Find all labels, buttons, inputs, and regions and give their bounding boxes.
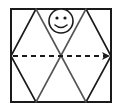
right-lower-edge [86,56,111,102]
diagram-canvas [0,0,118,108]
left-lower-edge [11,56,36,102]
left-eye [55,16,58,19]
right-upper-edge [86,9,111,56]
smiley-face-icon [49,9,73,33]
diagram-svg [0,0,118,108]
left-upper-edge [11,9,36,56]
right-eye [63,16,66,19]
